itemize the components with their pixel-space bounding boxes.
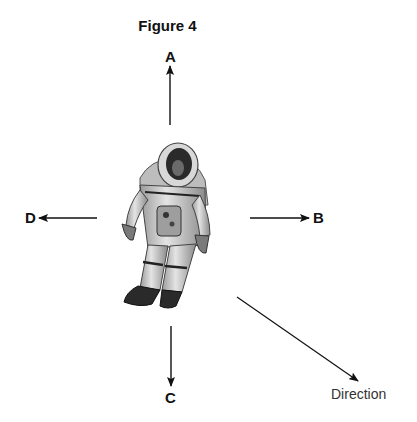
label-a: A (165, 48, 176, 65)
direction-arrow (237, 297, 358, 381)
label-b: B (313, 209, 324, 226)
diagram-canvas (0, 0, 417, 422)
label-d: D (25, 209, 36, 226)
astronaut-figure (122, 143, 210, 308)
direction-label: Direction (331, 386, 386, 402)
label-c: C (165, 389, 176, 406)
